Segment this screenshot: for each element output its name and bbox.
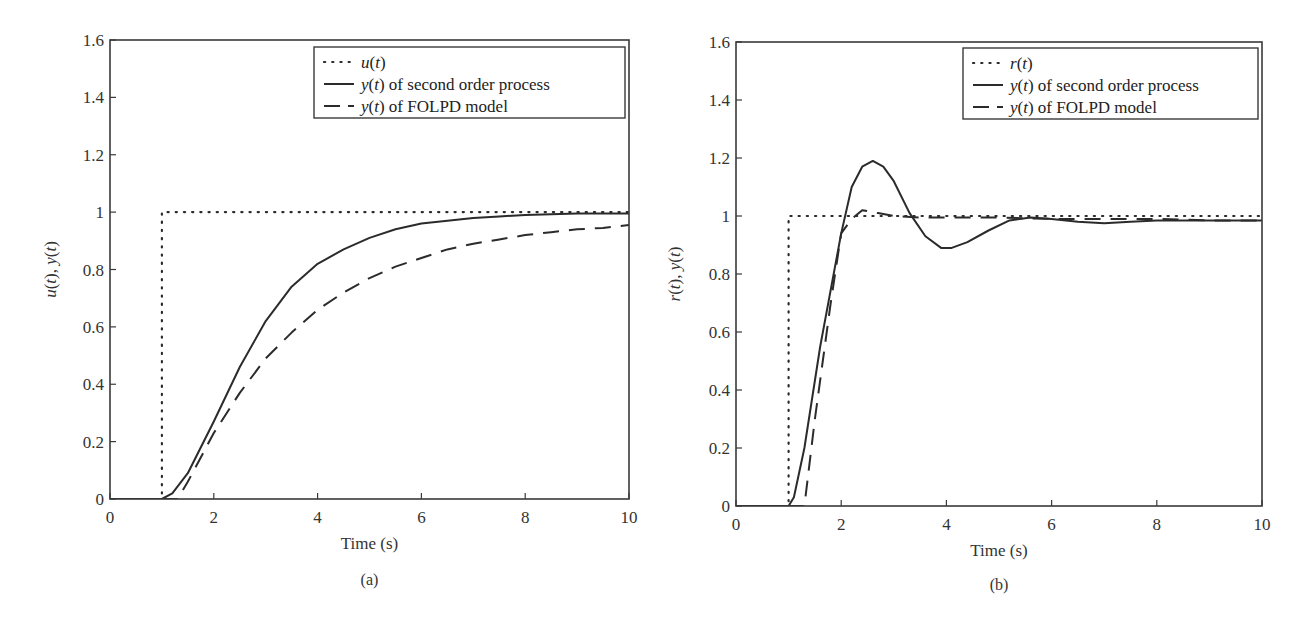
legend: u(t)y(t) of second order processy(t) of …: [314, 47, 625, 118]
x-tick-label: 4: [942, 515, 951, 534]
y-tick-label: 0.8: [83, 261, 104, 280]
series-solid-line: [736, 161, 1262, 506]
figure: 024681000.20.40.60.811.21.41.6Time (s)u(…: [0, 0, 1304, 619]
x-tick-label: 6: [417, 508, 426, 527]
legend-entry-label: y(t) of second order process: [359, 75, 550, 94]
y-axis-label: r(t), y(t): [665, 247, 684, 302]
x-tick-label: 10: [1254, 515, 1271, 534]
x-axis-label: Time (s): [970, 541, 1027, 560]
legend-entry-label: y(t) of FOLPD model: [1008, 98, 1157, 117]
series-dashed-line: [736, 210, 1262, 506]
x-tick-label: 8: [521, 508, 530, 527]
x-tick-label: 0: [732, 515, 741, 534]
y-tick-label: 1.6: [709, 33, 730, 52]
x-tick-label: 2: [210, 508, 219, 527]
x-axis-label: Time (s): [341, 534, 398, 553]
legend-entry-label: y(t) of second order process: [1008, 76, 1199, 95]
panel-label: (a): [361, 571, 379, 589]
y-tick-label: 0.8: [709, 265, 730, 284]
x-tick-label: 2: [837, 515, 846, 534]
x-tick-label: 8: [1153, 515, 1162, 534]
y-tick-label: 1: [96, 203, 105, 222]
legend-entry-label: u(t): [361, 53, 386, 72]
y-tick-label: 0: [722, 497, 731, 516]
y-tick-label: 1.4: [83, 88, 105, 107]
plot-area: [736, 161, 1262, 506]
y-tick-label: 0.4: [83, 375, 105, 394]
panel-label: (b): [990, 576, 1009, 594]
series-dotted-line: [110, 212, 629, 499]
y-tick-label: 1.4: [709, 91, 731, 110]
chart-panel-a: 024681000.20.40.60.811.21.41.6Time (s)u(…: [41, 31, 638, 589]
legend-entry-label: r(t): [1010, 54, 1033, 73]
y-axis-label: u(t), y(t): [41, 241, 60, 298]
x-tick-label: 4: [313, 508, 322, 527]
y-tick-label: 1.6: [83, 31, 104, 50]
y-tick-label: 0.6: [83, 318, 104, 337]
chart-panel-b: 024681000.20.40.60.811.21.41.6Time (s)r(…: [665, 33, 1271, 594]
x-tick-label: 6: [1047, 515, 1056, 534]
series-dashed-line: [110, 225, 629, 499]
y-tick-label: 0.2: [709, 439, 730, 458]
x-tick-label: 0: [106, 508, 115, 527]
series-solid-line: [110, 214, 629, 499]
x-tick-label: 10: [621, 508, 638, 527]
legend-entry-label: y(t) of FOLPD model: [359, 97, 508, 116]
y-tick-label: 1.2: [83, 146, 104, 165]
plot-area: [110, 212, 629, 499]
y-tick-label: 0.4: [709, 381, 731, 400]
y-tick-label: 0: [96, 490, 105, 509]
legend: r(t)y(t) of second order processy(t) of …: [963, 48, 1258, 119]
y-tick-label: 1.2: [709, 149, 730, 168]
y-tick-label: 0.6: [709, 323, 730, 342]
y-tick-label: 0.2: [83, 433, 104, 452]
series-dotted-line: [736, 216, 1262, 506]
y-tick-label: 1: [722, 207, 731, 226]
